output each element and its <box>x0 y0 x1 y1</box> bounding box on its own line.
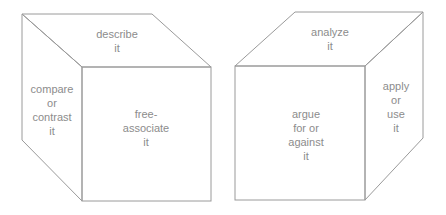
right-cube-top-label: analyze it <box>311 25 349 53</box>
label-line: for or <box>288 121 323 135</box>
label-line: compare <box>31 82 74 96</box>
label-line: it <box>311 39 349 53</box>
label-line: it <box>288 149 323 163</box>
left-cube-side-label: compare or contrast it <box>31 82 74 138</box>
right-cube-side-label: apply or use it <box>383 79 409 135</box>
label-line: argue <box>288 107 323 121</box>
label-line: or <box>31 96 74 110</box>
label-line: contrast <box>31 110 74 124</box>
label-line: against <box>288 135 323 149</box>
left-cube-top-label: describe it <box>96 27 138 55</box>
label-line: associate <box>123 121 169 135</box>
label-line: it <box>96 41 138 55</box>
label-line: or <box>383 93 409 107</box>
label-line: it <box>31 124 74 138</box>
label-line: describe <box>96 27 138 41</box>
left-cube-front-label: free- associate it <box>123 107 169 149</box>
label-line: it <box>123 135 169 149</box>
label-line: analyze <box>311 25 349 39</box>
label-line: free- <box>123 107 169 121</box>
label-line: it <box>383 121 409 135</box>
label-line: use <box>383 107 409 121</box>
right-cube-front-label: argue for or against it <box>288 107 323 163</box>
label-line: apply <box>383 79 409 93</box>
